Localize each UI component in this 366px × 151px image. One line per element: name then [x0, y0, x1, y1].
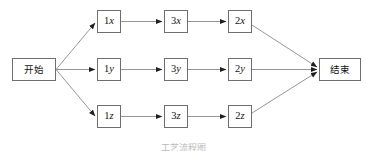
- node-1z-var: z: [110, 111, 114, 122]
- node-1x-var: x: [109, 16, 114, 27]
- node-2y[interactable]: 2y: [228, 58, 252, 81]
- node-3z[interactable]: 3z: [164, 105, 188, 128]
- node-3x-var: x: [176, 16, 181, 27]
- node-3y[interactable]: 3y: [164, 58, 188, 81]
- node-start[interactable]: 开始: [12, 58, 56, 81]
- edge-start-to-1x: [56, 23, 95, 70]
- node-1x[interactable]: 1x: [97, 10, 121, 33]
- node-end[interactable]: 结束: [319, 58, 361, 81]
- edge-start-to-1z: [56, 70, 95, 117]
- edge-2x-to-end: [252, 25, 317, 67]
- node-end-label: 结束: [330, 65, 351, 75]
- node-2x-var: x: [240, 16, 245, 27]
- node-2z[interactable]: 2z: [228, 105, 252, 128]
- node-3y-var: y: [176, 64, 181, 75]
- diagram-canvas: 开始 结束 1x 3x 2x 1y 3y 2y 1z 3z 2z 工艺流程图: [0, 0, 366, 151]
- edge-2z-to-end: [252, 72, 317, 113]
- node-3z-var: z: [177, 111, 181, 122]
- node-1z[interactable]: 1z: [97, 105, 121, 128]
- node-1y[interactable]: 1y: [97, 58, 121, 81]
- figure-caption: 工艺流程图: [0, 143, 366, 151]
- node-2y-var: y: [240, 64, 245, 75]
- node-3x[interactable]: 3x: [164, 10, 188, 33]
- node-1y-var: y: [109, 64, 114, 75]
- node-2x[interactable]: 2x: [228, 10, 252, 33]
- node-start-label: 开始: [24, 65, 45, 75]
- node-2z-var: z: [241, 111, 245, 122]
